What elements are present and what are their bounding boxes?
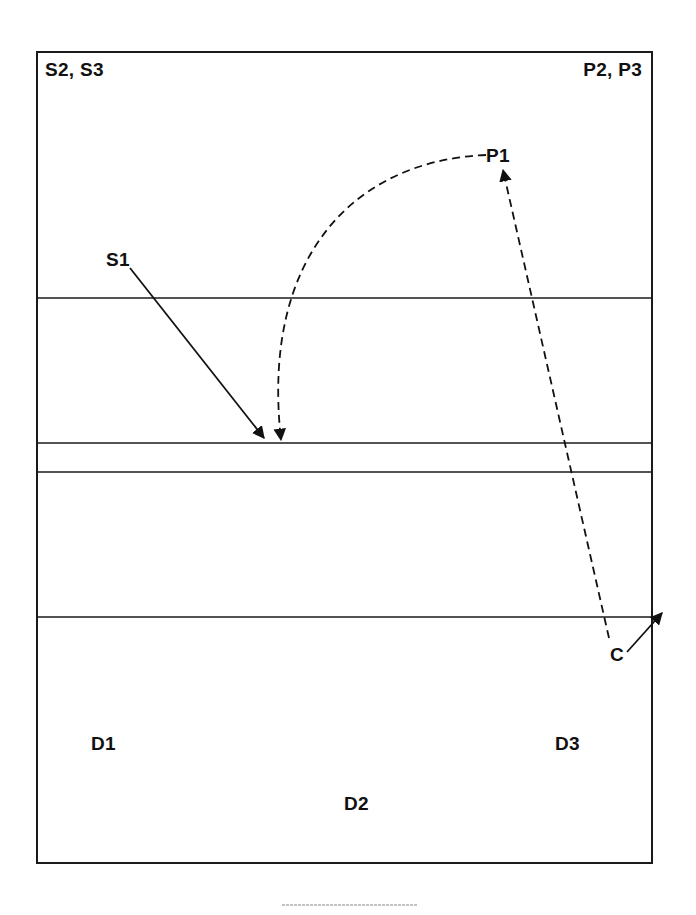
label-d1: D1 (91, 733, 116, 754)
label-p2-p3: P2, P3 (583, 59, 642, 80)
label-d2: D2 (344, 793, 369, 814)
label-p1: P1 (486, 145, 510, 166)
label-s1: S1 (106, 249, 130, 270)
label-c: C (610, 644, 624, 665)
c-to-p1-path (503, 170, 609, 638)
label-d3: D3 (555, 733, 580, 754)
s1-path-arrow (130, 268, 264, 438)
c-exit-arrow (627, 613, 662, 652)
play-diagram: S2, S3 P2, P3 S1 P1 C D1 D2 D3 (0, 0, 696, 915)
label-s2-s3: S2, S3 (45, 59, 104, 80)
